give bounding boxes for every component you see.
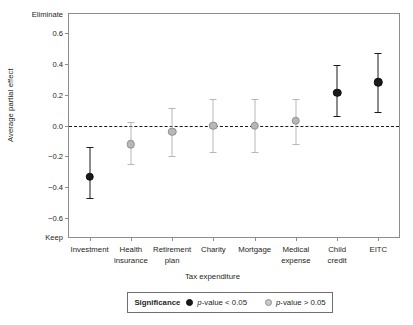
error-bar-cap-upper bbox=[86, 147, 93, 148]
error-bar-cap-upper bbox=[251, 99, 258, 100]
not-significant-marker-icon bbox=[265, 299, 272, 306]
y-axis-tick bbox=[65, 126, 69, 127]
data-point[interactable] bbox=[168, 127, 177, 136]
y-axis-tick-label: −0.6 bbox=[48, 214, 63, 223]
y-axis-tick bbox=[65, 33, 69, 34]
error-bar-cap-lower bbox=[210, 152, 217, 153]
error-bar-cap-upper bbox=[292, 99, 299, 100]
y-axis-tick-label: 0.2 bbox=[52, 90, 63, 99]
figure: Average partial effect 0.60.40.20.0−0.2−… bbox=[0, 0, 413, 325]
x-axis-tick bbox=[90, 237, 91, 241]
error-bar-cap-lower bbox=[334, 116, 341, 117]
error-bar-cap-upper bbox=[210, 99, 217, 100]
y-axis-tick bbox=[65, 218, 69, 219]
legend-entry-not-significant: p-value > 0.05 bbox=[265, 298, 326, 307]
x-axis-title: Tax expenditure bbox=[185, 272, 240, 281]
data-point[interactable] bbox=[250, 121, 259, 130]
y-axis-tick-label: −0.2 bbox=[48, 152, 63, 161]
x-axis-tick bbox=[255, 237, 256, 241]
data-point[interactable] bbox=[333, 89, 342, 98]
error-bar-cap-upper bbox=[334, 65, 341, 66]
error-bar-cap-lower bbox=[251, 152, 258, 153]
y-axis-tick-label: 0.6 bbox=[52, 28, 63, 37]
error-bar-cap-lower bbox=[292, 144, 299, 145]
legend-entry-significant-label: p-value < 0.05 bbox=[197, 298, 247, 307]
legend-entry-not-significant-label: p-value > 0.05 bbox=[276, 298, 326, 307]
plot-area: 0.60.40.20.0−0.2−0.4−0.6EliminateKeepInv… bbox=[68, 13, 400, 238]
data-point[interactable] bbox=[127, 140, 136, 149]
y-axis-tick bbox=[65, 156, 69, 157]
x-axis-tick-label: EITC bbox=[350, 244, 406, 255]
legend-title: Significance bbox=[134, 298, 180, 307]
error-bar-cap-lower bbox=[169, 156, 176, 157]
y-axis-bottom-label: Keep bbox=[45, 233, 63, 242]
error-bar-cap-lower bbox=[86, 198, 93, 199]
y-axis-tick-label: 0.0 bbox=[52, 121, 63, 130]
x-axis-title-container: Tax expenditure bbox=[0, 272, 413, 281]
y-axis-tick-label: 0.4 bbox=[52, 59, 63, 68]
error-bar-cap-lower bbox=[127, 164, 134, 165]
data-point[interactable] bbox=[85, 172, 94, 181]
x-axis-tick-label-line: EITC bbox=[350, 244, 406, 255]
zero-reference-line bbox=[69, 126, 399, 127]
y-axis-tick-label: −0.4 bbox=[48, 183, 63, 192]
y-axis-title: Average partial effect bbox=[6, 32, 15, 142]
legend: Significance p-value < 0.05 p-value > 0.… bbox=[127, 292, 333, 313]
y-axis-tick bbox=[65, 95, 69, 96]
error-bar-cap-lower bbox=[375, 112, 382, 113]
x-axis-tick bbox=[337, 237, 338, 241]
data-point[interactable] bbox=[374, 78, 383, 87]
data-point[interactable] bbox=[292, 117, 301, 126]
y-axis-tick bbox=[65, 187, 69, 188]
x-axis-tick bbox=[296, 237, 297, 241]
y-axis-tick bbox=[65, 64, 69, 65]
y-axis-title-container: Average partial effect bbox=[4, 60, 16, 180]
x-axis-tick bbox=[172, 237, 173, 241]
error-bar-cap-upper bbox=[127, 122, 134, 123]
x-axis-tick bbox=[213, 237, 214, 241]
error-bar-cap-upper bbox=[169, 108, 176, 109]
x-axis-tick-label-line: plan bbox=[144, 255, 200, 266]
x-axis-tick-label-line: credit bbox=[309, 255, 365, 266]
legend-entry-significant: p-value < 0.05 bbox=[186, 298, 247, 307]
error-bar-cap-upper bbox=[375, 53, 382, 54]
significant-marker-icon bbox=[186, 299, 193, 306]
y-axis-top-label: Eliminate bbox=[32, 10, 63, 19]
data-point[interactable] bbox=[209, 121, 218, 130]
x-axis-tick bbox=[131, 237, 132, 241]
x-axis-tick bbox=[378, 237, 379, 241]
